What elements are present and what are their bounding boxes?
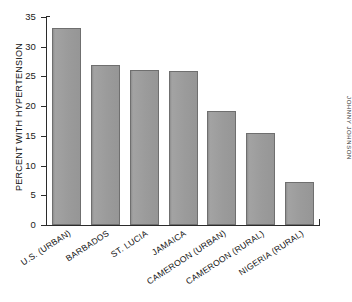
y-axis-tick-label: 10: [10, 160, 36, 171]
y-axis-tick-label: 20: [10, 100, 36, 111]
bar: [246, 133, 275, 225]
bar: [207, 111, 236, 225]
x-axis-category-label: ST. LUCIA: [109, 228, 150, 259]
illustrator-credit: JOHNNY JOHNSON: [346, 96, 352, 160]
y-axis-tick: [41, 195, 46, 196]
x-axis-line: [46, 225, 320, 226]
y-axis-tick: [41, 76, 46, 77]
y-axis-tick: [41, 166, 46, 167]
x-axis-category-label: NIGERIA (RURAL): [237, 228, 305, 277]
y-axis-tick-label: 25: [10, 70, 36, 81]
bar: [130, 70, 159, 225]
bar: [169, 71, 198, 226]
y-axis-tick-label: 0: [10, 219, 36, 230]
y-axis-tick-label: 15: [10, 130, 36, 141]
bars-container: [47, 17, 319, 225]
y-axis-tick: [41, 136, 46, 137]
bar: [91, 65, 120, 225]
bar: [52, 28, 81, 225]
y-axis-tick-label: 35: [10, 11, 36, 22]
y-axis-tick: [41, 225, 46, 226]
x-axis-end-cap: [319, 219, 320, 226]
y-axis-tick-label: 5: [10, 189, 36, 200]
x-axis-category-label: U.S. (URBAN): [19, 228, 73, 268]
y-axis-tick: [41, 47, 46, 48]
y-axis-tick: [41, 17, 46, 18]
bar: [285, 182, 314, 225]
x-axis-category-label: BARBADOS: [64, 228, 111, 263]
y-axis-tick-label: 30: [10, 41, 36, 52]
y-axis-tick: [41, 106, 46, 107]
